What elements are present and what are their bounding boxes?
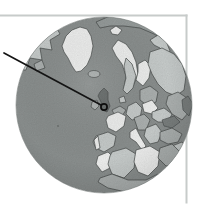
figure-canvas xyxy=(0,0,199,206)
grain-texture xyxy=(16,17,192,193)
globe-illustration xyxy=(0,0,199,206)
frame-border-top xyxy=(0,15,188,17)
